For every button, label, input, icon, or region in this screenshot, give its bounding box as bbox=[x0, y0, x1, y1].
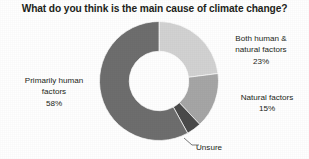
slice-label-line: Both human & bbox=[216, 33, 306, 44]
donut-chart-graphic bbox=[99, 21, 219, 159]
slice-label-primarily-human-factors: Primarily human factors 58% bbox=[2, 75, 106, 109]
slice-label-line: Unsure bbox=[196, 142, 244, 153]
slice-label-line: Primarily human bbox=[2, 75, 106, 86]
slice-label-line: factors bbox=[2, 86, 106, 97]
donut-slices bbox=[100, 22, 219, 141]
slice-value: 15% bbox=[226, 103, 308, 114]
donut-slice bbox=[159, 22, 218, 78]
donut-chart-figure: What do you think is the main cause of c… bbox=[0, 0, 309, 159]
slice-label-unsure: Unsure bbox=[196, 142, 244, 153]
donut-svg bbox=[99, 21, 219, 159]
slice-value: 23% bbox=[216, 56, 306, 67]
slice-label-line: natural factors bbox=[216, 44, 306, 55]
slice-label-line: Natural factors bbox=[226, 92, 308, 103]
chart-title: What do you think is the main cause of c… bbox=[0, 3, 309, 14]
slice-label-both-human-natural-factors: Both human & natural factors 23% bbox=[216, 33, 306, 67]
slice-value: 58% bbox=[2, 98, 106, 109]
slice-label-natural-factors: Natural factors 15% bbox=[226, 92, 308, 115]
